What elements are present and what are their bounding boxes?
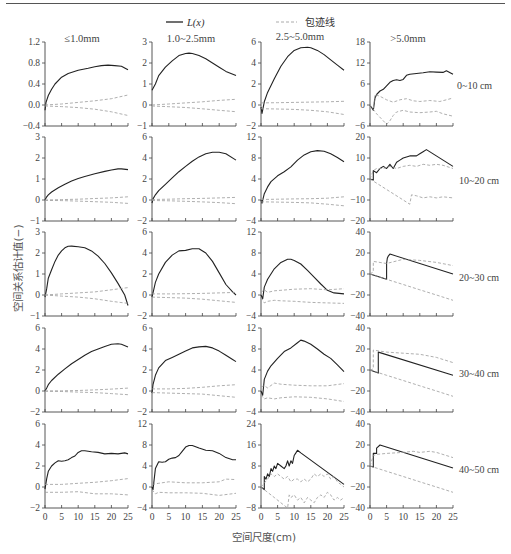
y-tick-label: 4 [142,153,147,163]
panel-r2-c3: −404812 [246,132,344,226]
y-tick-label: 0 [35,386,40,396]
x-tick-label: 25 [231,512,241,522]
y-tick-label: −2 [137,311,147,321]
y-tick-label: −2 [137,407,147,417]
row-label-5: 40~50 cm [459,464,499,475]
envelope-upper-curve [45,288,128,295]
lx-curve [261,151,344,204]
y-tick-label: 0 [142,100,147,110]
column-title-2: 1.0~2.5mm [167,33,215,44]
y-tick-label: 6 [142,323,147,333]
y-tick-label: 2 [142,174,147,184]
y-tick-label: 12 [247,227,257,237]
y-tick-label: 18 [356,37,366,47]
row-label-1: 0~10 cm [457,80,492,91]
y-tick-label: 2 [35,365,40,375]
y-tick-label: 2 [35,461,40,471]
lx-curve [152,53,236,90]
y-tick-label: 2 [142,365,147,375]
lx-curve [261,450,344,489]
y-tick-label: 4 [142,248,147,258]
y-tick-label: 0 [251,386,256,396]
y-tick-label: 12 [247,132,257,142]
y-tick-label: −0.4 [23,121,40,131]
y-tick-label: 0 [251,482,256,492]
lx-curve [370,445,453,468]
row-label-4: 30~40 cm [459,368,499,379]
panel-r1-c2: −10123 [137,37,236,131]
y-tick-label: 12 [138,419,148,429]
y-tick-label: 4 [251,58,256,68]
y-tick-label: 8 [251,344,256,354]
envelope-upper-curve [45,388,128,391]
column-title-4: >5.0mm [390,33,425,44]
x-tick-label: 0 [368,512,373,522]
x-tick-label: 5 [384,512,389,522]
envelope-lower-curve [370,370,453,396]
y-tick-label: 0 [35,290,40,300]
panel-r5-c2: −4048120510152025 [137,419,241,522]
y-tick-label: −20 [350,482,365,492]
y-tick-label: 20 [356,132,366,142]
lx-curve [261,259,344,298]
envelope-lower-curve [45,106,128,116]
envelope-upper-curve [152,385,236,389]
row-labels: 0~10 cm 10~20 cm 20~30 cm 30~40 cm 40~50… [457,80,499,475]
x-tick-label: 0 [43,512,48,522]
y-tick-label: 1 [35,174,40,184]
x-tick-label: 15 [415,512,425,522]
envelope-lower-curve [261,298,344,304]
panel-grid: −0.40.00.40.81.2−10123−20246−6061218−101… [23,37,458,522]
y-tick-label: −20 [350,216,365,226]
lx-curve [45,169,128,200]
y-tick-label: 12 [356,58,366,68]
y-tick-label: 8 [142,440,147,450]
y-tick-label: 10 [356,153,366,163]
y-tick-label: 40 [356,227,366,237]
y-tick-label: 16 [247,440,257,450]
y-tick-label: 4 [35,440,40,450]
y-tick-label: 1 [35,269,40,279]
x-tick-label: 15 [306,512,316,522]
y-tick-label: 6 [360,79,365,89]
y-tick-label: 3 [142,37,147,47]
y-tick-label: 4 [35,344,40,354]
envelope-upper-curve [45,479,128,485]
y-tick-label: −20 [350,386,365,396]
y-tick-label: 0 [360,365,365,375]
x-tick-label: 10 [73,512,83,522]
x-tick-label: 20 [107,512,117,522]
lx-curve [45,246,128,305]
x-tick-label: 5 [166,512,171,522]
envelope-lower-curve [261,487,344,508]
x-tick-label: 20 [214,512,224,522]
y-tick-label: −6 [355,121,365,131]
y-tick-label: 3 [35,132,40,142]
envelope-lower-curve [261,109,344,115]
legend-lx-label: L(x) [186,17,205,29]
envelope-lower-curve [152,490,236,496]
y-tick-label: 6 [251,37,256,47]
y-tick-label: 2 [251,79,256,89]
y-tick-label: −1 [30,311,40,321]
panel-r2-c1: −10123 [30,132,128,226]
lx-curve [152,249,236,297]
y-tick-label: 3 [35,227,40,237]
column-titles: ≤1.0mm 1.0~2.5mm 2.5~5.0mm >5.0mm [64,31,425,44]
panel-r4-c3: −404812 [246,323,344,417]
y-tick-label: 2 [35,248,40,258]
envelope-lower-curve [152,393,236,398]
y-tick-label: 20 [356,248,366,258]
panel-r1-c1: −0.40.00.40.81.2 [23,37,128,131]
panel-r3-c3: −404812 [246,227,344,321]
envelope-upper-curve [261,101,344,103]
x-tick-label: 20 [323,512,333,522]
x-tick-label: 10 [181,512,191,522]
envelope-lower-curve [152,201,236,204]
lx-curve [45,344,128,391]
y-tick-label: −4 [246,311,256,321]
panel-r5-c1: −202460510152025 [30,419,133,522]
y-tick-label: 8 [251,461,256,471]
y-tick-label: 20 [356,344,366,354]
x-tick-label: 25 [123,512,133,522]
